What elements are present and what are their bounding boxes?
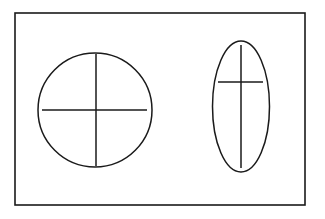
diagram-canvas bbox=[0, 0, 325, 219]
